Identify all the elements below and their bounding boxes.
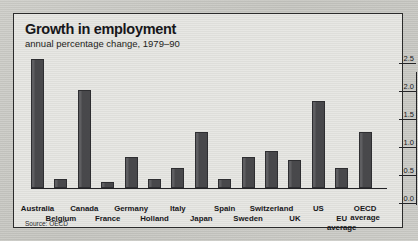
- chart-title: Growth in employment: [25, 21, 176, 37]
- bar: [54, 179, 67, 187]
- y-axis-tick-label: 1.0: [404, 138, 414, 147]
- bar: [312, 101, 325, 188]
- y-axis-tick-label: 2.5: [404, 54, 414, 63]
- chart-subtitle: annual percentage change, 1979–90: [25, 38, 180, 49]
- bar: [125, 157, 138, 188]
- bar: [265, 151, 278, 187]
- bar: [218, 179, 231, 187]
- y-axis-tick-label: 1.5: [404, 110, 414, 119]
- bar: [171, 168, 184, 188]
- y-axis-tick-label: 0.0: [404, 194, 414, 203]
- bar: [335, 168, 348, 188]
- y-axis-tick-label: 0.5: [404, 166, 414, 175]
- bar: [148, 179, 161, 187]
- chart-panel: Growth in employment annual percentage c…: [13, 13, 403, 228]
- plot-area: [31, 49, 371, 189]
- y-axis-tick-label: 2.0: [404, 82, 414, 91]
- bar: [31, 59, 44, 188]
- bar: [78, 90, 91, 188]
- y-axis: 0.00.51.01.52.02.5: [387, 62, 417, 204]
- x-axis-line: [31, 188, 387, 190]
- bar: [288, 160, 301, 188]
- bar: [195, 132, 208, 188]
- source-note: Source: OECD: [25, 220, 68, 227]
- x-axis-labels: AustraliaBelgiumCanadaFranceGermanyHolla…: [14, 204, 404, 238]
- x-axis-label: OECDaverage: [335, 204, 395, 222]
- bar: [359, 132, 372, 188]
- bar: [242, 157, 255, 188]
